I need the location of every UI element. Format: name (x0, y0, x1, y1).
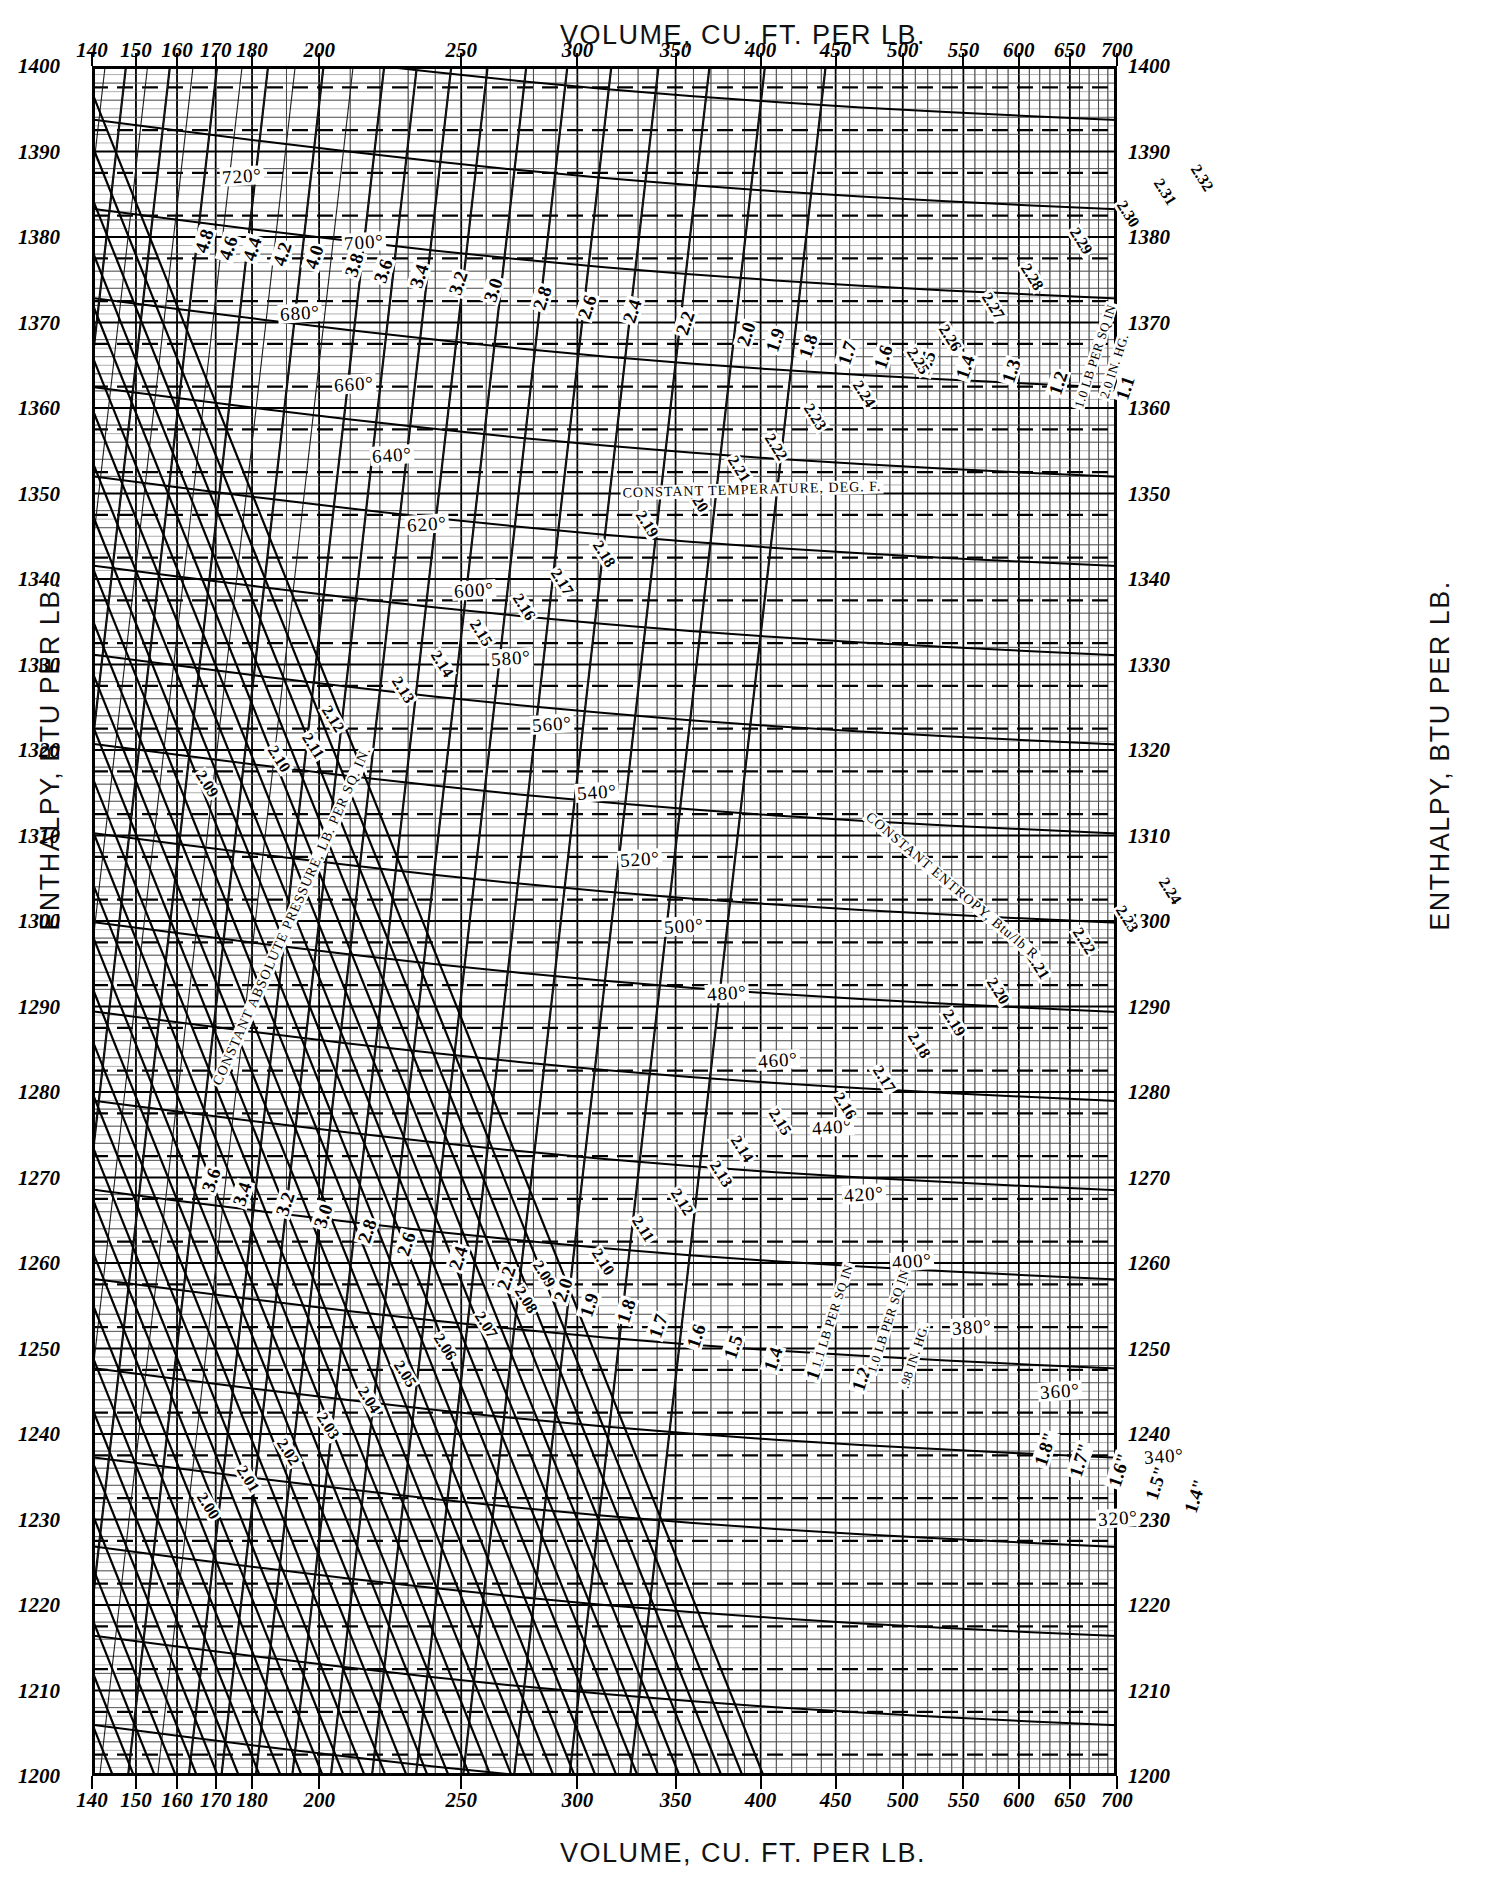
bottom-tick-600: 600 (1003, 1788, 1035, 1813)
top-tick-mark (460, 53, 462, 66)
left-tick-1380: 1380 (18, 225, 60, 250)
right-tick-1330: 1330 (1128, 652, 1170, 677)
top-tick-mark (835, 53, 837, 66)
left-tick-1360: 1360 (18, 396, 60, 421)
chart-grid-and-curves (92, 66, 1117, 1776)
left-tick-1220: 1220 (18, 1593, 60, 1618)
left-tick-1310: 1310 (18, 823, 60, 848)
right-tick-1240: 1240 (1128, 1422, 1170, 1447)
top-tick-mark (1018, 53, 1020, 66)
left-tick-1270: 1270 (18, 1165, 60, 1190)
left-tick-1210: 1210 (18, 1678, 60, 1703)
bottom-tick-200: 200 (303, 1788, 335, 1813)
temp-label-18: 360° (1037, 1380, 1082, 1402)
bottom-tick-140: 140 (76, 1788, 108, 1813)
bottom-tick-mark (576, 1776, 578, 1789)
top-tick-mark (215, 53, 217, 66)
left-tick-1320: 1320 (18, 738, 60, 763)
bottom-tick-mark (251, 1776, 253, 1789)
temp-label-20: 320° (1095, 1507, 1140, 1529)
left-tick-1200: 1200 (18, 1764, 60, 1789)
temp-label-12: 480° (704, 982, 749, 1004)
right-tick-1400: 1400 (1128, 54, 1170, 79)
right-tick-1260: 1260 (1128, 1251, 1170, 1276)
right-tick-1360: 1360 (1128, 396, 1170, 421)
right-tick-1370: 1370 (1128, 310, 1170, 335)
top-tick-mark (760, 53, 762, 66)
temp-label-10: 520° (617, 848, 662, 870)
left-tick-1370: 1370 (18, 310, 60, 335)
left-tick-1290: 1290 (18, 994, 60, 1019)
bottom-tick-mark (760, 1776, 762, 1789)
bottom-tick-150: 150 (120, 1788, 152, 1813)
entropy-label-1: 2.31 (1150, 174, 1181, 210)
right-tick-1310: 1310 (1128, 823, 1170, 848)
top-tick-mark (576, 53, 578, 66)
bottom-tick-mark (215, 1776, 217, 1789)
left-tick-1350: 1350 (18, 481, 60, 506)
bottom-axis-title: VOLUME, CU. FT. PER LB. (0, 1838, 1486, 1869)
temp-label-7: 580° (488, 647, 533, 669)
left-tick-1330: 1330 (18, 652, 60, 677)
temp-label-11: 500° (661, 915, 706, 937)
bottom-tick-300: 300 (562, 1788, 594, 1813)
left-tick-1300: 1300 (18, 909, 60, 934)
top-tick-mark (962, 53, 964, 66)
bottom-tick-mark (1069, 1776, 1071, 1789)
right-tick-1270: 1270 (1128, 1165, 1170, 1190)
right-tick-1290: 1290 (1128, 994, 1170, 1019)
pressure-label-bottom-20: 1.5" (1141, 1462, 1171, 1504)
left-tick-1280: 1280 (18, 1080, 60, 1105)
top-tick-mark (318, 53, 320, 66)
bottom-tick-450: 450 (820, 1788, 852, 1813)
bottom-tick-mark (962, 1776, 964, 1789)
bottom-tick-180: 180 (236, 1788, 268, 1813)
left-tick-1260: 1260 (18, 1251, 60, 1276)
bottom-tick-mark (318, 1776, 320, 1789)
bottom-tick-mark (176, 1776, 178, 1789)
right-tick-1210: 1210 (1128, 1678, 1170, 1703)
bottom-tick-650: 650 (1054, 1788, 1086, 1813)
bottom-tick-170: 170 (200, 1788, 232, 1813)
top-tick-mark (91, 53, 93, 66)
temp-label-0: 720° (219, 165, 264, 187)
left-tick-1390: 1390 (18, 139, 60, 164)
bottom-tick-400: 400 (745, 1788, 777, 1813)
temp-label-6: 600° (451, 579, 496, 601)
left-tick-1230: 1230 (18, 1507, 60, 1532)
bottom-tick-700: 700 (1101, 1788, 1133, 1813)
left-tick-1250: 1250 (18, 1336, 60, 1361)
left-tick-1400: 1400 (18, 54, 60, 79)
pressure-label-bottom-21: 1.4" (1180, 1475, 1210, 1517)
left-tick-1240: 1240 (18, 1422, 60, 1447)
temp-label-2: 680° (277, 302, 322, 324)
bottom-tick-mark (460, 1776, 462, 1789)
right-tick-1250: 1250 (1128, 1336, 1170, 1361)
bottom-tick-mark (675, 1776, 677, 1789)
top-tick-mark (675, 53, 677, 66)
top-tick-mark (135, 53, 137, 66)
bottom-tick-mark (135, 1776, 137, 1789)
mollier-chart-page: VOLUME, CU. FT. PER LB. ENTHALPY, BTU PE… (0, 0, 1486, 1886)
entropy-label-24: 2.24 (1155, 873, 1186, 909)
right-axis-title: ENTHALPY, BTU PER LB. (1425, 556, 1456, 956)
top-tick-mark (251, 53, 253, 66)
left-tick-1340: 1340 (18, 567, 60, 592)
top-tick-mark (1116, 53, 1118, 66)
bottom-tick-250: 250 (446, 1788, 478, 1813)
entropy-label-0: 2.32 (1187, 160, 1218, 196)
bottom-tick-mark (91, 1776, 93, 1789)
temp-label-8: 560° (529, 713, 574, 735)
chart-plot-area (92, 66, 1117, 1776)
temp-label-5: 620° (404, 513, 449, 535)
top-tick-mark (902, 53, 904, 66)
right-tick-1200: 1200 (1128, 1764, 1170, 1789)
temp-label-4: 640° (369, 444, 414, 466)
bottom-tick-mark (902, 1776, 904, 1789)
right-tick-1340: 1340 (1128, 567, 1170, 592)
temp-label-15: 420° (841, 1183, 886, 1205)
bottom-tick-mark (835, 1776, 837, 1789)
temp-label-17: 380° (949, 1316, 994, 1338)
bottom-tick-500: 500 (887, 1788, 919, 1813)
temp-label-9: 540° (574, 781, 619, 803)
